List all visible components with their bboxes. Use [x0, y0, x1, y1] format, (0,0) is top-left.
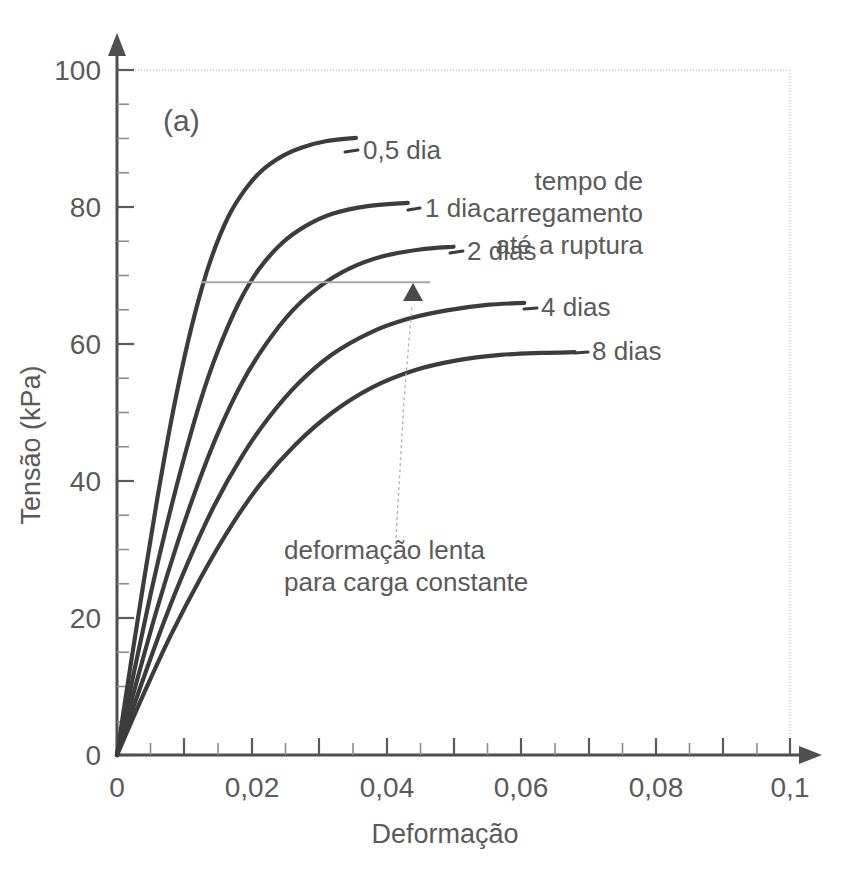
- y-axis-arrowhead: [108, 33, 126, 56]
- time-to-failure-line-1: tempo de: [535, 166, 643, 196]
- y-tick-label-40: 40: [70, 466, 101, 497]
- time-to-failure-line-2: carregamento: [483, 198, 643, 228]
- leader-2-dias: [450, 251, 463, 253]
- x-tick-label-0.04: 0,04: [360, 772, 415, 803]
- x-tick-label-0.08: 0,08: [629, 772, 684, 803]
- creep-note-line-1: deformação lenta: [284, 535, 485, 565]
- stress-strain-chart-svg: 0 20 40 60 80 100 Tensão (kPa): [0, 0, 846, 876]
- panel-label: (a): [163, 104, 200, 137]
- leader-4-dias: [524, 308, 537, 309]
- y-axis-title: Tensão (kPa): [16, 365, 46, 524]
- y-tick-label-100: 100: [54, 55, 101, 86]
- creep-note-line-2: para carga constante: [284, 567, 528, 597]
- curve-label-4-dias: 4 dias: [541, 292, 610, 322]
- x-axis-title: Deformação: [371, 819, 518, 849]
- chart-figure: 0 20 40 60 80 100 Tensão (kPa): [0, 0, 846, 876]
- y-tick-label-0: 0: [85, 740, 101, 771]
- creep-callout-arrowhead: [403, 283, 423, 301]
- x-axis-arrowhead: [799, 746, 822, 764]
- y-tick-label-60: 60: [70, 329, 101, 360]
- curve-label-0-5-dia: 0,5 dia: [363, 135, 442, 165]
- leader-1-dia: [408, 208, 420, 210]
- y-tick-label-80: 80: [70, 192, 101, 223]
- curve-0-5-dia: [117, 138, 356, 755]
- leader-0-5-dia: [345, 150, 358, 152]
- x-tick-label-0: 0: [109, 772, 125, 803]
- x-tick-label-0.02: 0,02: [225, 772, 280, 803]
- time-to-failure-line-3: até a ruptura: [496, 230, 644, 260]
- curve-label-8-dias: 8 dias: [592, 336, 661, 366]
- curve-2-dias: [117, 247, 454, 755]
- x-axis: 0 0,02 0,04 0,06 0,08 0,1 Deformação: [109, 738, 822, 849]
- time-to-failure-annotation: tempo de carregamento até a ruptura: [483, 166, 644, 260]
- creep-annotation: deformação lenta para carga constante: [284, 535, 528, 597]
- x-tick-label-0.06: 0,06: [494, 772, 549, 803]
- curve-label-1-dia: 1 dia: [425, 193, 482, 223]
- y-axis: 0 20 40 60 80 100 Tensão (kPa): [16, 33, 134, 771]
- curve-4-dias: [117, 303, 524, 755]
- y-tick-label-20: 20: [70, 603, 101, 634]
- creep-callout-dashed-line: [396, 305, 412, 538]
- x-tick-label-0.1: 0,1: [771, 772, 810, 803]
- plot-bounding-box: [117, 70, 790, 755]
- leader-8-dias: [575, 352, 588, 353]
